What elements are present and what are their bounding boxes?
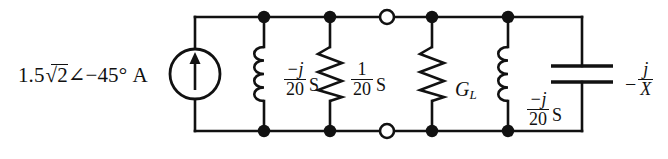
source-unit: A xyxy=(133,63,148,87)
capacitor-label: −jX xyxy=(625,60,653,99)
source-angle: −45° xyxy=(86,63,128,87)
inductor-2-fraction: −j20 xyxy=(527,90,549,129)
source-radical: √2 xyxy=(45,63,68,87)
source-angle-symbol: ∠ xyxy=(68,63,86,87)
inductor-2-label: −j20S xyxy=(527,90,562,129)
open-terminal-bottom xyxy=(380,124,394,138)
resistor-1-symbol xyxy=(318,47,342,101)
source-magnitude: 1.5 xyxy=(18,63,45,87)
resistor-gl-subscript: L xyxy=(469,87,476,102)
circuit-diagram: 1.5√2∠−45° A −j20S 120S GL −j20S −jX xyxy=(0,0,668,159)
inductor-2-symbol xyxy=(498,47,508,101)
inductor-1-symbol xyxy=(254,47,264,101)
resistor-1-unit: S xyxy=(373,76,386,94)
source-label: 1.5√2∠−45° A xyxy=(18,65,148,86)
current-source-symbol xyxy=(170,49,220,99)
open-terminal-top xyxy=(380,10,394,24)
resistor-1-fraction: 120 xyxy=(351,60,373,99)
capacitor-sign: − xyxy=(625,74,638,94)
capacitor-symbol xyxy=(551,66,613,82)
inductor-1-fraction: −j20 xyxy=(284,60,306,99)
resistor-gl-symbol xyxy=(420,47,444,101)
capacitor-fraction: jX xyxy=(638,60,653,99)
inductor-1-unit: S xyxy=(306,76,319,94)
inductor-2-unit: S xyxy=(549,106,562,124)
resistor-gl-label: GL xyxy=(455,79,477,101)
resistor-1-label: 120S xyxy=(351,60,386,99)
inductor-1-label: −j20S xyxy=(284,60,319,99)
